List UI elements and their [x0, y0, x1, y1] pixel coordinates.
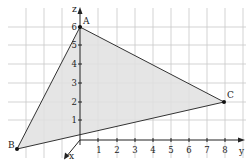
point-b — [15, 147, 19, 151]
point-b-label: B — [8, 140, 15, 150]
point-a — [78, 25, 82, 29]
svg-text:6: 6 — [72, 22, 77, 32]
point-a-label: A — [82, 16, 90, 26]
y-axis-label: y — [238, 146, 245, 156]
point-c — [222, 100, 226, 104]
x-axis-label: x — [69, 151, 74, 161]
svg-text:5: 5 — [168, 145, 173, 155]
svg-text:2: 2 — [72, 97, 77, 107]
svg-text:1: 1 — [96, 145, 101, 155]
svg-text:7: 7 — [204, 145, 209, 155]
svg-text:2: 2 — [114, 145, 119, 155]
svg-text:5: 5 — [72, 40, 77, 50]
svg-text:6: 6 — [186, 145, 191, 155]
y-tick-labels: 1 2 3 4 5 6 7 8 — [96, 145, 227, 155]
svg-text:8: 8 — [222, 145, 227, 155]
point-c-label: C — [227, 90, 234, 100]
triangle-diagram: z y x 1 2 3 4 5 6 1 2 3 4 5 6 7 8 A B C — [0, 0, 250, 162]
y-axis-arrow-icon — [238, 138, 245, 143]
svg-text:4: 4 — [150, 145, 155, 155]
z-axis-arrow-icon — [78, 7, 83, 14]
z-axis-label: z — [72, 4, 77, 14]
svg-text:4: 4 — [72, 59, 77, 69]
svg-text:3: 3 — [132, 145, 137, 155]
svg-text:3: 3 — [72, 78, 77, 88]
svg-text:1: 1 — [72, 115, 77, 125]
